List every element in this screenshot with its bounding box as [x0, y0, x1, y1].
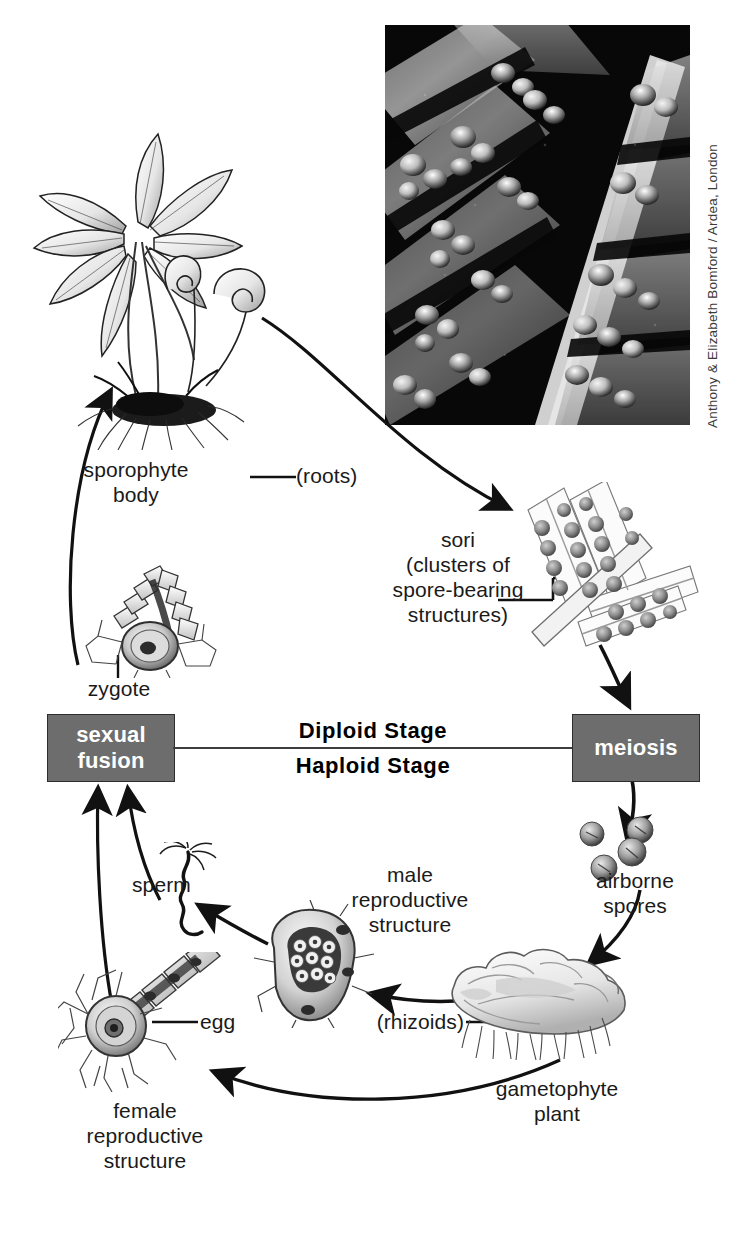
sori-label: sori (clusters of spore-bearing structur…	[358, 527, 558, 627]
zygote-illustration	[78, 548, 228, 678]
sporophyte-plant-illustration	[18, 130, 318, 450]
fern-life-cycle-figure: Anthony & Elizabeth Bomford / Ardea, Lon…	[0, 0, 751, 1234]
roots-label: (roots)	[296, 463, 357, 488]
male-reproductive-structure-label: male reproductive structure	[330, 862, 490, 937]
zygote-label: zygote	[60, 676, 178, 701]
rhizoids-label: (rhizoids)	[346, 1009, 464, 1034]
airborne-spores-label: airborne spores	[560, 868, 710, 918]
female-reproductive-structure-label: female reproductive structure	[50, 1098, 240, 1173]
sporophyte-body-label: sporophyte body	[56, 457, 216, 507]
diploid-stage-label: Diploid Stage	[203, 718, 543, 744]
haploid-stage-label: Haploid Stage	[203, 753, 543, 779]
sexual-fusion-node[interactable]: sexual fusion	[47, 714, 175, 782]
photograph-content	[385, 25, 690, 425]
fern-sori-photograph	[385, 25, 690, 425]
sperm-label: sperm	[132, 872, 191, 897]
egg-label: egg	[200, 1009, 235, 1034]
meiosis-node[interactable]: meiosis	[572, 714, 700, 782]
gametophyte-plant-label: gametophyte plant	[462, 1076, 652, 1126]
gametophyte-plant-illustration	[448, 930, 648, 1060]
photo-credit: Anthony & Elizabeth Bomford / Ardea, Lon…	[705, 144, 720, 428]
stage-divider-line	[173, 747, 572, 749]
